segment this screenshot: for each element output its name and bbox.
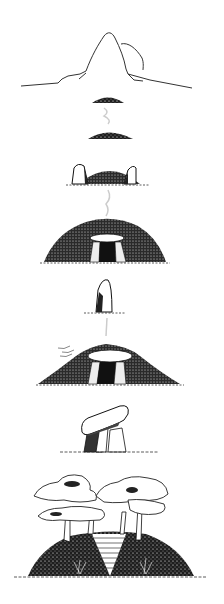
- tree-covered-mound: [14, 475, 206, 577]
- eroded-dolmen-mound: [36, 344, 184, 385]
- smoke-wisp-1: [104, 108, 109, 124]
- smoke-wisp-2: [106, 190, 110, 216]
- standing-stone: [84, 280, 126, 313]
- dolmen-mound: [40, 219, 170, 263]
- exposed-dolmen: [60, 406, 158, 452]
- smoke-wisp-3: [106, 318, 107, 336]
- small-mound-1: [92, 98, 124, 104]
- small-mound-2: [88, 133, 133, 140]
- mountain-outline-icon: [21, 33, 192, 88]
- mound-with-stones: [66, 164, 150, 185]
- megalith-evolution-illustration: [0, 0, 224, 604]
